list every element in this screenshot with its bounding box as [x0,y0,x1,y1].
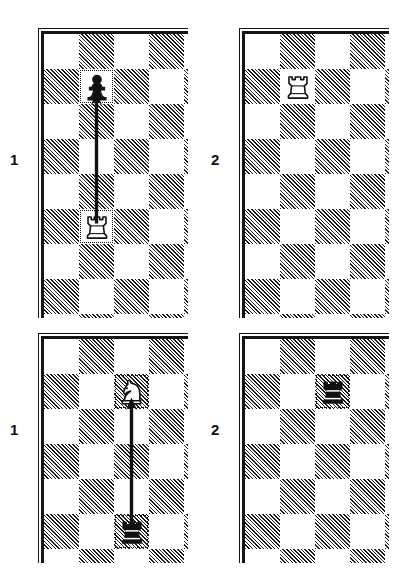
board-square[interactable] [44,174,79,209]
board-square[interactable] [184,409,188,444]
board-square[interactable] [149,314,184,318]
board-square[interactable] [245,444,280,479]
board-square[interactable] [385,339,389,374]
board-square[interactable] [315,479,350,514]
board-square[interactable] [149,409,184,444]
board-square[interactable] [184,139,188,174]
board-square[interactable] [245,104,280,139]
board-square[interactable] [280,139,315,174]
board-square[interactable] [114,174,149,209]
board-square[interactable] [184,34,188,69]
board-square[interactable] [79,409,114,444]
board-square[interactable] [44,514,79,549]
board-square[interactable] [114,34,149,69]
board-square[interactable] [385,174,389,209]
board-square[interactable] [350,279,385,314]
board-square[interactable] [350,444,385,479]
board-square[interactable] [149,209,184,244]
board-square[interactable] [245,374,280,409]
board-square[interactable] [315,104,350,139]
board-square[interactable] [280,339,315,374]
board-square[interactable] [184,104,188,139]
board-square[interactable] [184,244,188,279]
chess-board-panel-1-top[interactable] [38,28,188,318]
board-square[interactable] [184,339,188,374]
board-square[interactable] [79,209,114,244]
board-square[interactable] [350,209,385,244]
board-square[interactable] [385,244,389,279]
board-square[interactable] [280,174,315,209]
board-square[interactable] [184,174,188,209]
board-square[interactable] [79,314,114,318]
board-square[interactable] [44,209,79,244]
board-square[interactable] [184,479,188,514]
board-square[interactable] [385,514,389,549]
board-square[interactable] [79,244,114,279]
board-square[interactable] [79,339,114,374]
board-square[interactable] [149,339,184,374]
board-square[interactable] [44,69,79,104]
board-square[interactable] [245,174,280,209]
board-square[interactable] [114,339,149,374]
board-square[interactable] [350,374,385,409]
board-square[interactable] [149,514,184,549]
board-square[interactable] [385,209,389,244]
board-square[interactable] [385,444,389,479]
board-square[interactable] [350,339,385,374]
board-square[interactable] [315,339,350,374]
board-square[interactable] [315,279,350,314]
board-square[interactable] [385,104,389,139]
board-square[interactable] [350,479,385,514]
board-square[interactable] [44,549,79,563]
board-square[interactable] [245,409,280,444]
board-square[interactable] [149,174,184,209]
board-square[interactable] [385,34,389,69]
board-square[interactable] [315,139,350,174]
board-square[interactable] [350,34,385,69]
board-square[interactable] [280,514,315,549]
board-square[interactable] [315,444,350,479]
board-square[interactable] [114,139,149,174]
board-square[interactable] [385,549,389,563]
board-square[interactable] [114,69,149,104]
board-square[interactable] [280,209,315,244]
board-square[interactable] [79,479,114,514]
board-square[interactable] [280,409,315,444]
board-square[interactable] [149,104,184,139]
board-square[interactable] [149,34,184,69]
board-square[interactable] [149,444,184,479]
board-square[interactable] [184,279,188,314]
board-square[interactable] [79,514,114,549]
board-square[interactable] [245,34,280,69]
board-square[interactable] [245,244,280,279]
board-square[interactable] [44,104,79,139]
board-square[interactable] [315,314,350,318]
board-square[interactable] [114,444,149,479]
board-square[interactable] [114,279,149,314]
board-square[interactable] [44,339,79,374]
board-square[interactable] [280,444,315,479]
board-square[interactable] [315,409,350,444]
board-square[interactable] [350,139,385,174]
board-square[interactable] [385,409,389,444]
board-square[interactable] [315,549,350,563]
board-square[interactable] [245,139,280,174]
board-square[interactable] [350,69,385,104]
board-square[interactable] [245,69,280,104]
board-square[interactable] [114,514,149,549]
board-square[interactable] [44,479,79,514]
board-square[interactable] [184,444,188,479]
board-square[interactable] [44,314,79,318]
board-square[interactable] [79,444,114,479]
board-square[interactable] [44,139,79,174]
board-square[interactable] [79,549,114,563]
chess-board-panel-1-bottom[interactable] [38,333,188,563]
board-square[interactable] [79,69,114,104]
board-square[interactable] [79,34,114,69]
board-square[interactable] [280,374,315,409]
board-square[interactable] [149,479,184,514]
board-square[interactable] [44,34,79,69]
board-square[interactable] [245,549,280,563]
board-square[interactable] [280,69,315,104]
board-square[interactable] [184,69,188,104]
